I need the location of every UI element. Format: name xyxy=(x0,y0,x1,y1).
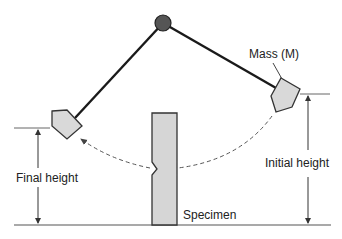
mass-right xyxy=(271,78,300,112)
charpy-pendulum-diagram: Final height Initial height Specimen Mas… xyxy=(0,0,342,239)
swing-path xyxy=(178,116,272,168)
mass-label: Mass (M) xyxy=(249,47,299,61)
swing-path-return xyxy=(81,139,150,168)
pendulum-arm-left xyxy=(75,23,163,118)
initial-height-label: Initial height xyxy=(265,156,330,170)
final-height-label: Final height xyxy=(16,171,79,185)
specimen xyxy=(152,113,177,225)
mass-leader-line xyxy=(273,63,282,79)
specimen-label: Specimen xyxy=(183,208,236,222)
pivot-icon xyxy=(155,15,171,31)
